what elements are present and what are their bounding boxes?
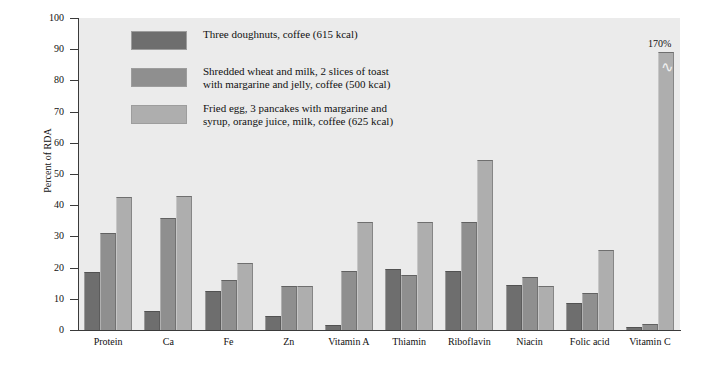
- y-axis-tick: [70, 205, 78, 206]
- bar: [100, 233, 116, 330]
- y-axis-tick-label: 0: [4, 325, 64, 335]
- y-axis-tick-label: 30: [4, 231, 64, 241]
- y-axis-tick-label: 80: [4, 75, 64, 85]
- y-axis-tick-label: 40: [4, 200, 64, 210]
- bar: [221, 280, 237, 330]
- y-axis-tick: [70, 18, 78, 19]
- y-axis-tick: [70, 143, 78, 144]
- x-axis-line: [78, 330, 681, 331]
- y-axis-tick-label: 50: [4, 169, 64, 179]
- bar: [658, 52, 674, 330]
- legend-swatch: [131, 105, 187, 124]
- bar: [626, 327, 642, 330]
- bar: [265, 316, 281, 330]
- bar: [281, 286, 297, 330]
- bar: [566, 303, 582, 330]
- y-axis-tick: [70, 268, 78, 269]
- legend-swatch: [131, 68, 187, 87]
- bar: [84, 272, 100, 330]
- bar: [297, 286, 313, 330]
- bar: [538, 286, 554, 330]
- y-axis-tick: [70, 236, 78, 237]
- bar: [237, 263, 253, 330]
- bar: [205, 291, 221, 330]
- axis-break-icon: ∿: [661, 60, 674, 75]
- legend-swatch: [131, 31, 187, 50]
- y-axis-tick-label: 100: [4, 13, 64, 23]
- legend-label: Shredded wheat and milk, 2 slices of toa…: [203, 65, 390, 91]
- bar: [445, 271, 461, 330]
- bar: [417, 222, 433, 330]
- bar: [598, 250, 614, 330]
- y-axis-tick: [70, 330, 78, 331]
- bar: [477, 160, 493, 330]
- y-axis-tick-label: 20: [4, 263, 64, 273]
- y-axis-tick: [70, 49, 78, 50]
- bar: [642, 324, 658, 330]
- bar-group: [84, 18, 132, 330]
- y-axis-tick-label: 60: [4, 138, 64, 148]
- break-value-annotation: 170%: [648, 38, 671, 49]
- bar: [385, 269, 401, 330]
- bar: [144, 311, 160, 330]
- bar-group: [445, 18, 493, 330]
- bar-chart-figure: Percent of RDA 0102030405060708090100 Pr…: [0, 0, 710, 373]
- bar: [325, 325, 341, 330]
- bar: [160, 218, 176, 330]
- bar-group: [144, 18, 192, 330]
- y-axis-tick-label: 10: [4, 294, 64, 304]
- bar: [341, 271, 357, 330]
- x-axis-label: Vitamin C: [610, 336, 690, 347]
- y-axis-tick: [70, 112, 78, 113]
- legend-label: Fried egg, 3 pancakes with margarine and…: [203, 102, 393, 128]
- bar: [506, 285, 522, 330]
- bar: [401, 275, 417, 330]
- y-axis-tick: [70, 299, 78, 300]
- y-axis-tick: [70, 174, 78, 175]
- bar: [522, 277, 538, 330]
- y-axis-tick-label: 90: [4, 44, 64, 54]
- y-axis-tick: [70, 80, 78, 81]
- bar: [582, 293, 598, 330]
- bar: [116, 197, 132, 330]
- bar-group: [385, 18, 433, 330]
- bar-group: [566, 18, 614, 330]
- bar: [176, 196, 192, 330]
- bar: [461, 222, 477, 330]
- bar-group: [506, 18, 554, 330]
- y-axis-tick-label: 70: [4, 107, 64, 117]
- legend-label: Three doughnuts, coffee (615 kcal): [203, 28, 358, 41]
- bar: [357, 222, 373, 330]
